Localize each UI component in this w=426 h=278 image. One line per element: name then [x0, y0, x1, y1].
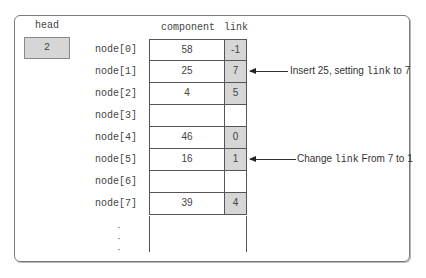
component-cell: 39 — [149, 193, 224, 215]
component-cell: 16 — [149, 149, 224, 171]
component-cell: 25 — [149, 61, 224, 83]
link-cell — [224, 171, 247, 193]
component-cell — [149, 105, 224, 127]
table-row: node[1] 25 7 — [149, 61, 248, 83]
table-row: node[3] — [149, 105, 248, 127]
row-label: node[7] — [95, 193, 145, 215]
annotation-code: link — [367, 66, 391, 77]
link-column-header: link — [222, 22, 250, 33]
table-continuation — [149, 216, 248, 252]
head-value-box: 2 — [24, 37, 70, 59]
annotation-change: Change link From 7 to 1 — [297, 153, 413, 165]
table-row: node[6] — [149, 171, 248, 193]
link-cell: 7 — [224, 61, 247, 83]
row-label: node[0] — [95, 39, 145, 61]
arrow-change — [250, 159, 296, 160]
link-cell: 0 — [224, 127, 247, 149]
row-label: node[5] — [95, 149, 145, 171]
component-cell: 4 — [149, 83, 224, 105]
link-cell: -1 — [224, 39, 247, 61]
row-label: node[4] — [95, 127, 145, 149]
head-label: head — [24, 20, 70, 31]
component-cell — [149, 171, 224, 193]
component-column-header: component — [152, 22, 224, 33]
row-label: node[2] — [95, 83, 145, 105]
row-label: node[3] — [95, 105, 145, 127]
link-cell: 1 — [224, 149, 247, 171]
ellipsis-dots: ··· — [116, 222, 122, 255]
annotation-insert: Insert 25, setting link to 7 — [290, 65, 410, 77]
component-cell: 46 — [149, 127, 224, 149]
row-label: node[1] — [95, 61, 145, 83]
table-row: node[4] 46 0 — [149, 127, 248, 149]
annotation-code: link — [335, 154, 359, 165]
arrowhead-icon — [249, 156, 256, 162]
table-row: node[5] 16 1 — [149, 149, 248, 171]
link-cell: 4 — [224, 193, 247, 215]
arrowhead-icon — [249, 68, 256, 74]
arrow-insert — [250, 71, 288, 72]
table-row: node[2] 4 5 — [149, 83, 248, 105]
link-cell — [224, 105, 247, 127]
table-row: node[7] 39 4 — [149, 193, 248, 215]
row-label: node[6] — [95, 171, 145, 193]
annotation-text: Change — [297, 153, 335, 164]
annotation-text: to 7 — [391, 65, 410, 76]
component-cell: 58 — [149, 39, 224, 61]
annotation-text: From 7 to 1 — [359, 153, 413, 164]
continuation-line-left — [149, 216, 150, 252]
annotation-text: Insert 25, setting — [290, 65, 367, 76]
table-row: node[0] 58 -1 — [149, 39, 248, 61]
continuation-line-right — [246, 216, 247, 252]
link-cell: 5 — [224, 83, 247, 105]
node-array-table: node[0] 58 -1 node[1] 25 7 node[2] 4 5 n… — [149, 39, 248, 215]
